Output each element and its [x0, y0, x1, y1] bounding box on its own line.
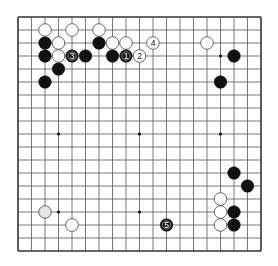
white-stone	[106, 37, 119, 50]
white-stone	[214, 219, 227, 232]
white-stone: 4	[147, 37, 160, 50]
white-stone	[52, 50, 65, 63]
white-stone	[66, 219, 79, 232]
black-stone	[52, 63, 65, 76]
move-number-label: 2	[137, 51, 142, 61]
black-stone	[228, 206, 241, 219]
go-board[interactable]: 31542	[0, 0, 278, 266]
star-point	[219, 54, 222, 57]
black-stone	[228, 50, 241, 63]
move-number-label: 3	[70, 51, 75, 61]
star-point	[219, 132, 222, 135]
move-number-label: 4	[151, 38, 156, 48]
star-point	[138, 132, 141, 135]
white-stone: 2	[133, 50, 146, 63]
white-stone	[120, 37, 133, 50]
black-stone	[228, 219, 241, 232]
move-number-label: 1	[124, 51, 129, 61]
white-stone	[66, 24, 79, 37]
move-number-label: 5	[164, 220, 169, 230]
white-stone	[214, 206, 227, 219]
star-point	[57, 132, 60, 135]
white-stone	[39, 206, 52, 219]
white-stone	[52, 37, 65, 50]
white-stone	[214, 193, 227, 206]
black-stone: 1	[120, 50, 133, 63]
black-stone	[79, 50, 92, 63]
white-stone	[201, 37, 214, 50]
black-stone	[39, 37, 52, 50]
black-stone: 5	[160, 219, 173, 232]
white-stone	[39, 24, 52, 37]
black-stone	[241, 180, 254, 193]
white-stone	[93, 24, 106, 37]
black-stone	[93, 37, 106, 50]
black-stone	[39, 76, 52, 89]
star-point	[57, 210, 60, 213]
black-stone	[106, 50, 119, 63]
star-point	[138, 210, 141, 213]
black-stone	[214, 76, 227, 89]
black-stone: 3	[66, 50, 79, 63]
black-stone	[228, 167, 241, 180]
black-stone	[39, 50, 52, 63]
